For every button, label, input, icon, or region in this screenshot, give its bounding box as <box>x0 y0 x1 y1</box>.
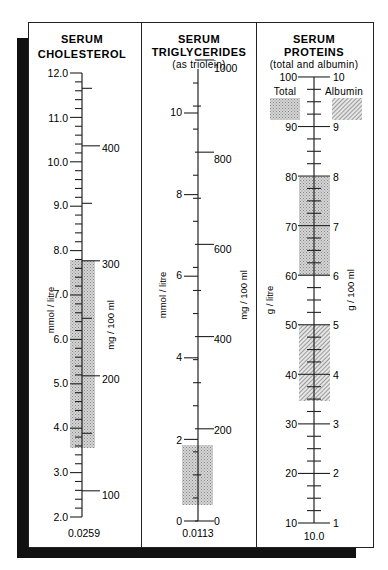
svg-text:4: 4 <box>333 369 339 381</box>
svg-text:10.0: 10.0 <box>48 156 69 168</box>
svg-text:1: 1 <box>333 517 339 529</box>
svg-text:6: 6 <box>333 270 339 282</box>
panel-subtitle: (total and albumin) <box>270 59 359 70</box>
svg-text:9: 9 <box>333 121 339 133</box>
svg-text:8: 8 <box>176 188 182 200</box>
panel-title-line2: TRIGLYCERIDES <box>152 46 247 58</box>
panel-title-line1: SERUM <box>61 33 103 45</box>
svg-text:3: 3 <box>333 418 339 430</box>
svg-text:90: 90 <box>285 121 297 133</box>
right-unit-label: mg / 100 ml <box>105 300 116 350</box>
svg-text:11.0: 11.0 <box>48 112 68 124</box>
svg-text:80: 80 <box>285 171 297 183</box>
svg-text:8.0: 8.0 <box>53 244 68 256</box>
svg-text:0: 0 <box>176 515 182 527</box>
svg-text:300: 300 <box>102 258 120 270</box>
panel-title-line1: SERUM <box>178 33 220 45</box>
right-unit-label: g / 100 ml <box>345 269 356 311</box>
legend-albumin-label: Albumin <box>325 86 363 97</box>
svg-text:3.0: 3.0 <box>53 466 68 478</box>
right-unit-label: mg / 100 ml <box>238 270 249 320</box>
svg-text:4: 4 <box>176 351 182 363</box>
nomogram-chart: SERUM CHOLESTEROL 12.0 11.0 10.0 9.0 8.0… <box>0 0 388 570</box>
left-unit-label: g / litre <box>264 286 275 315</box>
svg-text:40: 40 <box>285 369 297 381</box>
svg-text:2.0: 2.0 <box>53 511 68 523</box>
svg-text:10: 10 <box>333 71 345 83</box>
svg-text:50: 50 <box>285 319 297 331</box>
svg-text:4.0: 4.0 <box>53 421 68 433</box>
conversion-factor: 10.0 <box>304 530 325 542</box>
svg-text:60: 60 <box>285 270 297 282</box>
svg-text:0: 0 <box>214 515 220 527</box>
svg-text:2: 2 <box>176 434 182 446</box>
frame-shadow-bottom <box>17 547 356 558</box>
left-unit-label: mmol / litre <box>45 287 56 333</box>
legend-total-swatch <box>270 98 300 120</box>
conversion-factor: 0.0259 <box>68 527 100 539</box>
svg-text:10: 10 <box>170 106 182 118</box>
svg-text:20: 20 <box>285 467 297 479</box>
left-unit-label: mmol / litre <box>157 272 168 318</box>
svg-text:400: 400 <box>214 333 232 345</box>
svg-text:100: 100 <box>279 71 297 83</box>
svg-text:8: 8 <box>333 171 339 183</box>
svg-text:10: 10 <box>285 517 297 529</box>
svg-text:7: 7 <box>333 221 339 233</box>
conversion-factor: 0.0113 <box>182 527 213 539</box>
svg-text:400: 400 <box>102 142 120 154</box>
svg-text:6.0: 6.0 <box>53 333 68 345</box>
panel-title-line2: PROTEINS <box>284 46 344 58</box>
svg-text:100: 100 <box>102 489 120 501</box>
svg-text:200: 200 <box>214 424 232 436</box>
panel-title-line1: SERUM <box>293 33 335 45</box>
legend-total-label: Total <box>274 86 297 97</box>
svg-text:200: 200 <box>102 373 120 385</box>
svg-text:2: 2 <box>333 467 339 479</box>
svg-text:70: 70 <box>285 221 297 233</box>
svg-text:9.0: 9.0 <box>53 199 68 211</box>
svg-text:6: 6 <box>176 269 182 281</box>
svg-text:800: 800 <box>214 153 232 165</box>
svg-text:12.0: 12.0 <box>48 67 69 79</box>
legend-albumin-swatch <box>332 98 362 120</box>
panel-title-line2: CHOLESTEROL <box>38 48 127 60</box>
svg-text:5: 5 <box>333 319 339 331</box>
svg-text:1000: 1000 <box>214 62 238 74</box>
frame-shadow-left <box>17 38 29 558</box>
svg-text:600: 600 <box>214 243 232 255</box>
svg-text:5.0: 5.0 <box>53 377 68 389</box>
svg-text:30: 30 <box>285 418 297 430</box>
